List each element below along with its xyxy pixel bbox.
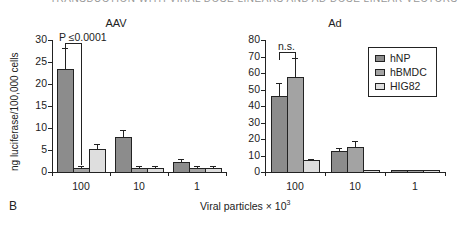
x-axis-title-exponent: 3: [286, 199, 290, 206]
legend-swatch-hbmdc: [375, 69, 385, 76]
x-tick-label: 100: [280, 180, 310, 192]
x-tick: [226, 172, 227, 176]
legend-label: hNP: [390, 52, 410, 64]
legend-item-hig82: HIG82: [375, 80, 420, 92]
significance-bracket: [65, 43, 82, 57]
error-bar-cap: [336, 148, 342, 149]
bar-hnp-10: [331, 151, 348, 173]
error-bar-cap: [352, 141, 358, 142]
y-tick-label: 50: [238, 83, 260, 95]
bar-hig82-100: [89, 149, 106, 173]
x-tick: [265, 172, 266, 176]
y-tick-label: 40: [238, 99, 260, 111]
bar-hnp-1: [173, 162, 190, 173]
y-tick: [48, 40, 52, 41]
error-bar-cap: [276, 83, 282, 84]
x-tick-label: 100: [66, 180, 96, 192]
cropped-header-text: TRANSDUCTION WITH VIRAL DOSE LINEARS AND…: [50, 0, 458, 4]
y-tick: [261, 40, 265, 41]
bar-hig82-10: [363, 170, 380, 173]
y-tick-label: 30: [238, 116, 260, 128]
error-bar: [295, 58, 296, 77]
y-axis-line: [52, 40, 53, 173]
y-axis-line: [265, 40, 266, 173]
bar-hig82-1: [423, 170, 440, 173]
error-bar-cap: [194, 166, 200, 167]
y-tick: [48, 150, 52, 151]
x-tick: [445, 172, 446, 176]
error-bar-cap: [94, 144, 100, 145]
x-tick: [110, 172, 111, 176]
aav-y-axis-label: ng luciferase/100,000 cells: [9, 53, 20, 171]
y-tick-label: 5: [25, 143, 47, 155]
legend-swatch-hnp: [375, 55, 385, 62]
error-bar-cap: [152, 166, 158, 167]
x-tick-label: 1: [400, 180, 430, 192]
x-tick-label: 1: [182, 180, 212, 192]
bar-hbmdc-1: [189, 168, 206, 173]
legend-item-hbmdc: hBMDC: [375, 66, 427, 78]
significance-bracket-leg: [81, 43, 82, 165]
error-bar-cap: [210, 166, 216, 167]
y-tick: [261, 57, 265, 58]
bar-hnp-100: [271, 96, 288, 173]
y-tick-label: 60: [238, 66, 260, 78]
bar-hnp-10: [115, 137, 132, 173]
y-tick: [48, 128, 52, 129]
y-tick: [48, 62, 52, 63]
panel-label: B: [9, 199, 17, 213]
y-tick: [261, 139, 265, 140]
bar-hig82-1: [205, 168, 222, 173]
significance-label: n.s.: [278, 40, 295, 52]
error-bar-cap: [136, 166, 142, 167]
y-tick-label: 0: [25, 165, 47, 177]
aav-chart-title: AAV: [86, 17, 146, 29]
x-tick-label: 10: [124, 180, 154, 192]
y-tick: [261, 90, 265, 91]
x-tick: [168, 172, 169, 176]
x-axis-title: Viral particles × 103: [200, 199, 290, 212]
x-tick-label: 10: [340, 180, 370, 192]
x-tick: [325, 172, 326, 176]
bar-hig82-10: [147, 168, 164, 173]
bar-hbmdc-100: [73, 168, 90, 173]
y-tick-label: 0: [238, 165, 260, 177]
x-tick: [385, 172, 386, 176]
y-tick-label: 30: [25, 33, 47, 45]
y-tick-label: 70: [238, 50, 260, 62]
y-tick-label: 25: [25, 55, 47, 67]
x-tick: [52, 172, 53, 176]
y-tick: [48, 106, 52, 107]
legend-swatch-hig82: [375, 83, 385, 90]
bar-hnp-1: [391, 170, 408, 173]
error-bar-cap: [178, 159, 184, 160]
y-tick-label: 20: [25, 77, 47, 89]
bar-hbmdc-100: [287, 77, 304, 173]
bar-hig82-100: [303, 160, 320, 173]
ad-chart-title: Ad: [305, 17, 365, 29]
y-tick-label: 80: [238, 33, 260, 45]
y-tick: [48, 84, 52, 85]
y-tick: [261, 106, 265, 107]
legend: hNP hBMDC HIG82: [368, 47, 437, 97]
y-tick: [261, 123, 265, 124]
legend-label: HIG82: [390, 80, 420, 92]
y-tick: [261, 73, 265, 74]
y-tick-label: 10: [25, 121, 47, 133]
error-bar-cap: [120, 130, 126, 131]
bar-hnp-100: [57, 69, 74, 173]
error-bar: [279, 83, 280, 96]
error-bar-cap: [78, 166, 84, 167]
significance-label: P ≤0.0001: [59, 31, 107, 43]
error-bar-cap: [308, 159, 314, 160]
significance-bracket: [279, 52, 296, 60]
x-axis-title-text: Viral particles × 10: [200, 200, 286, 212]
legend-item-hnp: hNP: [375, 52, 410, 64]
y-tick-label: 15: [25, 99, 47, 111]
y-tick: [261, 156, 265, 157]
bar-hbmdc-10: [347, 147, 364, 173]
bar-hbmdc-1: [407, 170, 424, 173]
y-tick-label: 20: [238, 132, 260, 144]
bar-hbmdc-10: [131, 168, 148, 173]
y-tick-label: 10: [238, 149, 260, 161]
